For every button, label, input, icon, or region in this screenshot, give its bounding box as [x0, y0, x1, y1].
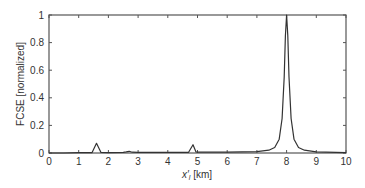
x-tick-label: 3 [135, 156, 141, 167]
y-tick-label: 0.6 [30, 65, 44, 76]
x-tick-label: 4 [165, 156, 171, 167]
x-axis: 012345678910 [46, 15, 352, 167]
x-axis-label: x′l [km] [181, 169, 212, 181]
y-axis: 00.20.40.60.81 [30, 10, 346, 159]
y-axis-label: FCSE [normalized] [15, 42, 26, 126]
x-tick-label: 10 [340, 156, 352, 167]
x-tick-label: 1 [76, 156, 82, 167]
y-tick-label: 0 [38, 148, 44, 159]
x-tick-label: 6 [224, 156, 230, 167]
x-tick-label: 9 [314, 156, 320, 167]
plot-border [49, 15, 346, 153]
plot-frame [49, 15, 346, 153]
fcse-series-line [49, 15, 346, 153]
x-tick-label: 7 [254, 156, 260, 167]
y-tick-label: 0.8 [30, 37, 44, 48]
y-tick-label: 0.4 [30, 92, 44, 103]
x-tick-label: 8 [284, 156, 290, 167]
fcse-chart: 012345678910 00.20.40.60.81 x′l [km] FCS… [0, 0, 365, 188]
y-tick-label: 1 [38, 10, 44, 21]
x-tick-label: 5 [195, 156, 201, 167]
x-axis-label-unit: [km] [190, 169, 212, 180]
y-tick-label: 0.2 [30, 120, 44, 131]
x-tick-label: 0 [46, 156, 52, 167]
x-tick-label: 2 [106, 156, 112, 167]
